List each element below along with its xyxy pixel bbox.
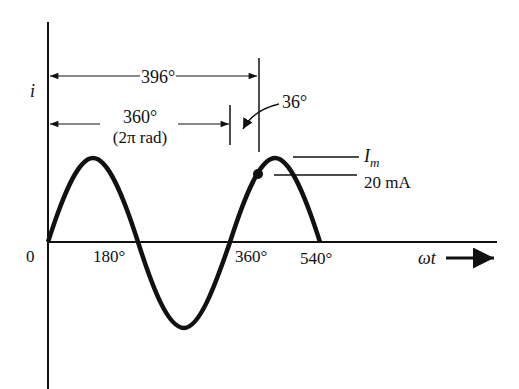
waveform-diagram: 396° 360° (2π rad) 36° Im 20 mA i 0 180°… xyxy=(0,0,519,389)
label-im: Im xyxy=(363,146,379,170)
offset-arrow-36 xyxy=(243,104,279,129)
point-marker-20mA xyxy=(253,169,263,179)
label-36: 36° xyxy=(282,92,307,112)
label-2pi-rad: (2π rad) xyxy=(113,128,167,147)
tick-label-180: 180° xyxy=(93,247,125,266)
y-axis-label: i xyxy=(30,81,35,101)
tick-label-540: 540° xyxy=(300,249,332,268)
label-360: 360° xyxy=(123,107,157,127)
x-axis-label: ωt xyxy=(418,248,437,268)
label-396: 396° xyxy=(141,67,175,87)
label-20mA: 20 mA xyxy=(364,173,411,192)
origin-label: 0 xyxy=(26,247,35,266)
tick-label-360: 360° xyxy=(235,247,267,266)
